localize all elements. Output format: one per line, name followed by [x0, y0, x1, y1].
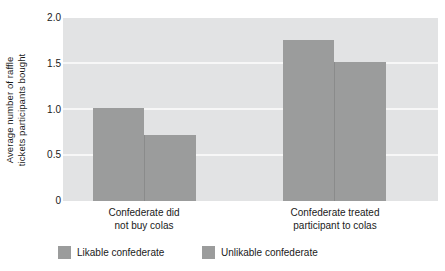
x-category-label-0-line-1: Confederate did: [79, 206, 209, 219]
y-axis-tick-labels: 2.0 1.5 1.0 0.5 0: [30, 0, 61, 271]
x-category-label-0: Confederate did not buy colas: [79, 206, 209, 232]
x-category-label-0-line-2: not buy colas: [79, 219, 209, 232]
chart-legend: Likable confederate Unlikable confederat…: [0, 246, 445, 264]
legend-label-unlikable: Unlikable confederate: [221, 246, 318, 259]
y-tick-label-2-0: 2.0: [33, 13, 61, 23]
y-axis-title-line-1: Average number of raffle: [4, 53, 16, 166]
y-tick-label-0: 0: [33, 196, 61, 206]
x-category-label-1: Confederate treated participant to colas: [265, 206, 405, 232]
legend-swatch-likable-icon: [58, 246, 71, 259]
y-tick-label-1-0: 1.0: [33, 105, 61, 115]
legend-swatch-unlikable-icon: [202, 246, 215, 259]
plot-area: [63, 18, 438, 201]
x-category-label-1-line-1: Confederate treated: [265, 206, 405, 219]
bar-separator-group-1: [144, 135, 145, 201]
y-axis-title-line-2: tickets participants bought: [15, 53, 27, 166]
bar-group-2-likable: [283, 40, 334, 201]
legend-item-likable[interactable]: Likable confederate: [58, 246, 164, 259]
bar-separator-group-2: [334, 62, 335, 201]
legend-label-likable: Likable confederate: [77, 246, 164, 259]
bar-group-2-unlikable: [334, 62, 386, 201]
bar-group-1-likable: [93, 108, 144, 201]
legend-item-unlikable[interactable]: Unlikable confederate: [202, 246, 318, 259]
bar-group-1-unlikable: [144, 135, 196, 201]
y-axis-title: Average number of raffle tickets partici…: [0, 18, 30, 201]
y-tick-label-0-5: 0.5: [33, 150, 61, 160]
y-tick-label-1-5: 1.5: [33, 59, 61, 69]
x-category-label-1-line-2: participant to colas: [265, 219, 405, 232]
bar-chart-figure: Average number of raffle tickets partici…: [0, 0, 445, 271]
